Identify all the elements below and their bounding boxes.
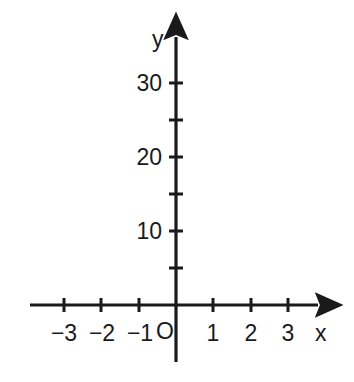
x-tick-label-1: 1 — [207, 322, 220, 345]
origin-label: O — [156, 320, 174, 343]
x-tick-label-2: 2 — [245, 322, 258, 345]
x-tick-label-minus3: −3 — [51, 322, 77, 345]
y-tick-label-10: 10 — [110, 220, 162, 243]
y-axis-label: y — [152, 28, 164, 51]
x-tick-label-minus1: −1 — [127, 322, 153, 345]
coordinate-plane-figure: 30 20 10 −3 −2 −1 1 2 3 O y x — [0, 0, 354, 382]
y-tick-label-30: 30 — [110, 72, 162, 95]
y-tick-label-20: 20 — [110, 146, 162, 169]
x-axis-label: x — [315, 322, 327, 345]
x-tick-label-minus2: −2 — [89, 322, 115, 345]
x-tick-label-3: 3 — [282, 322, 295, 345]
